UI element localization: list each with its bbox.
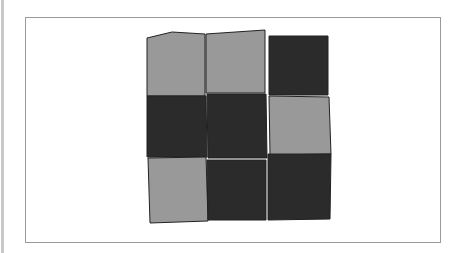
- tile-r3-c2[interactable]: [207, 160, 266, 220]
- tile-r2-c3[interactable]: [269, 96, 331, 155]
- tile-r1-c2[interactable]: [206, 30, 265, 93]
- tile-r3-c3[interactable]: [268, 154, 331, 220]
- tile-r1-c3[interactable]: [269, 36, 328, 95]
- tile-r3-c1[interactable]: [148, 157, 208, 223]
- tile-r2-c2[interactable]: [207, 94, 267, 158]
- tile-r1-c1[interactable]: [147, 32, 205, 96]
- game-board: [0, 0, 465, 253]
- tile-r2-c1[interactable]: [147, 96, 207, 157]
